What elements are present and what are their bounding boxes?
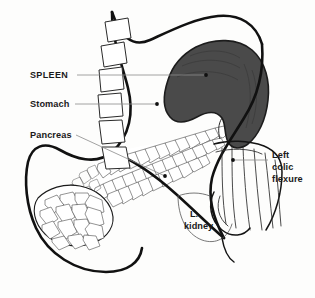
label-l-kidney-line-1: L. bbox=[190, 209, 198, 219]
vertebra-3 bbox=[99, 67, 124, 92]
pancreatic-head-lobules bbox=[40, 192, 104, 250]
label-left-colic-flexure-line-2: colic bbox=[272, 162, 293, 172]
label-left-colic-flexure-line-3: flexure bbox=[272, 174, 303, 184]
leader-dot-stomach bbox=[155, 102, 159, 106]
colic-flexure-descending-tail bbox=[222, 238, 234, 262]
label-pancreas: Pancreas bbox=[30, 130, 72, 140]
stomach-fundus-curve bbox=[112, 12, 262, 44]
vertebra-1 bbox=[105, 18, 131, 42]
label-left-colic-flexure: Left colic flexure bbox=[272, 150, 303, 184]
vertebra-2 bbox=[101, 42, 127, 67]
anatomical-figure: SPLEEN Stomach Pancreas Left colic flexu… bbox=[0, 0, 315, 298]
label-l-kidney-line-2: kidney bbox=[184, 221, 214, 231]
left-kidney-upper-pole bbox=[178, 193, 210, 196]
label-spleen: SPLEEN bbox=[30, 70, 68, 80]
vertebra-4 bbox=[98, 93, 123, 118]
label-l-kidney: L. kidney bbox=[184, 209, 214, 231]
leader-dot-pancreas bbox=[163, 174, 167, 178]
label-stomach: Stomach bbox=[30, 99, 70, 109]
vertebral-column bbox=[98, 18, 131, 169]
figure-canvas: SPLEEN Stomach Pancreas Left colic flexu… bbox=[0, 0, 315, 298]
leader-dot-colic-flexure bbox=[231, 158, 235, 162]
vertebra-5 bbox=[99, 120, 125, 144]
left-kidney-organ bbox=[178, 193, 232, 242]
label-left-colic-flexure-line-1: Left bbox=[272, 150, 289, 160]
leader-dot-spleen bbox=[204, 73, 208, 77]
